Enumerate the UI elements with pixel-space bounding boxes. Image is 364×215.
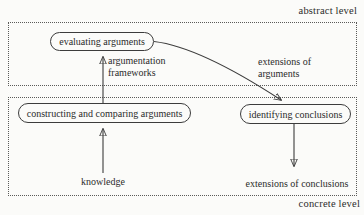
edge-label-extensions-of-conclusions: extensions of conclusions (238, 178, 356, 190)
edge-label-extensions-of-arguments: extensions of arguments (258, 56, 311, 80)
edge-label-extensions-of-arguments-line1: extensions of (258, 56, 311, 68)
node-identifying-conclusions: identifying conclusions (240, 104, 351, 124)
edge-label-argumentation-frameworks-line1: argumentation (108, 55, 166, 67)
edge-label-knowledge: knowledge (60, 176, 146, 188)
concrete-level-label: concrete level (299, 198, 360, 209)
edge-label-argumentation-frameworks: argumentation frameworks (108, 55, 166, 79)
abstract-level-label: abstract level (299, 5, 357, 16)
node-constructing-comparing-arguments: constructing and comparing arguments (18, 103, 191, 123)
edge-label-argumentation-frameworks-line2: frameworks (108, 67, 166, 79)
edge-label-extensions-of-arguments-line2: arguments (258, 68, 311, 80)
node-evaluating-arguments: evaluating arguments (50, 32, 154, 51)
argumentation-diagram: abstract level concrete level evaluating… (0, 0, 364, 215)
